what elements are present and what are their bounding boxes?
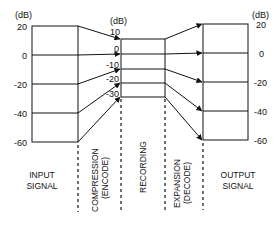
recording-tick: 10 — [110, 27, 120, 37]
recording-level-box — [121, 39, 165, 97]
compression-label: COMPRESSION — [90, 148, 100, 212]
input-level-box — [32, 26, 78, 142]
recording-tick: -20 — [106, 74, 119, 84]
recording-tick: -30 — [106, 89, 119, 99]
output-signal-label: OUTPUT — [221, 170, 256, 180]
output-unit-label: (dB) — [252, 10, 269, 20]
output-axis-labels: (dB) 20 0 -20 -40 -60 — [252, 10, 269, 146]
output-tick: -60 — [254, 136, 267, 146]
output-level-box — [203, 24, 248, 140]
input-tick: -40 — [14, 109, 27, 119]
input-tick: 0 — [22, 51, 27, 61]
companding-diagram: (dB) 20 0 -20 -40 -60 (dB) 10 0 -10 -20 … — [0, 0, 278, 225]
output-signal-label-2: SIGNAL — [222, 181, 253, 191]
recording-axis-labels: (dB) 10 0 -10 -20 -30 — [106, 16, 127, 99]
recording-label: RECORDING — [138, 141, 148, 193]
expansion-label: EXPANSION — [172, 159, 182, 208]
recording-unit-label: (dB) — [110, 16, 127, 26]
expansion-arrows — [165, 24, 202, 140]
input-signal-label-2: SIGNAL — [26, 181, 57, 191]
input-tick: 20 — [17, 22, 27, 32]
output-tick: 20 — [256, 20, 266, 30]
encode-label: (ENCODE) — [100, 157, 110, 199]
input-tick: -20 — [14, 80, 27, 90]
output-tick: -40 — [254, 107, 267, 117]
recording-tick: -10 — [106, 60, 119, 70]
input-unit-label: (dB) — [15, 10, 32, 20]
output-tick: -20 — [254, 78, 267, 88]
output-tick: 0 — [259, 49, 264, 59]
decode-label: (DECODE) — [182, 162, 192, 204]
input-axis-labels: (dB) 20 0 -20 -40 -60 — [14, 10, 32, 148]
input-signal-label: INPUT — [29, 170, 55, 180]
recording-tick: 0 — [114, 44, 119, 54]
input-tick: -60 — [14, 138, 27, 148]
